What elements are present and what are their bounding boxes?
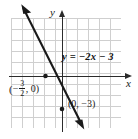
line-arrow-lower-icon bbox=[75, 120, 85, 130]
fraction-denominator: 2 bbox=[19, 89, 25, 98]
x-intercept-label: ( − 3 2 , 0) bbox=[9, 80, 39, 98]
y-intercept-label: (0, −3) bbox=[68, 98, 95, 109]
x-intercept-label-rest: , 0) bbox=[26, 84, 39, 94]
graph-figure: y x y = −2x − 3 ( − 3 2 , 0) (0, −3) bbox=[0, 0, 138, 139]
x-intercept-negative-sign: − bbox=[13, 84, 19, 94]
line-arrow-upper-icon bbox=[21, 4, 31, 14]
point-marker-y-intercept bbox=[60, 107, 65, 112]
plotted-line-group bbox=[0, 0, 138, 139]
equation-label: y = −2x − 3 bbox=[62, 51, 114, 62]
fraction-numerator: 3 bbox=[19, 80, 25, 90]
x-intercept-fraction: 3 2 bbox=[19, 80, 25, 98]
point-marker-x-intercept bbox=[43, 74, 48, 79]
